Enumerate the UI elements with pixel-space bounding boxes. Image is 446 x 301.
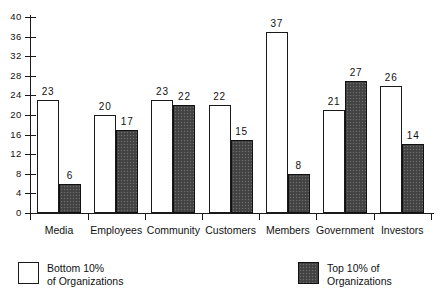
- x-tick-mark: [374, 213, 375, 220]
- legend-label-bottom-10-line2: of Organizations: [47, 275, 123, 288]
- bar: [266, 32, 288, 213]
- legend-label-top-10: Top 10% of Organizations: [327, 262, 392, 287]
- bar: [402, 144, 424, 213]
- bar-value-label: 15: [225, 127, 259, 137]
- x-tick-mark: [145, 213, 146, 220]
- x-tick-mark: [88, 213, 89, 220]
- bar-value-label: 21: [317, 97, 351, 107]
- bar: [59, 184, 81, 213]
- bar-value-label: 37: [260, 19, 294, 29]
- x-tick-mark: [259, 213, 260, 220]
- legend-item-bottom-10: Bottom 10% of Organizations: [18, 262, 123, 287]
- bar-value-label: 23: [31, 87, 65, 97]
- legend-item-top-10: Top 10% of Organizations: [298, 262, 392, 287]
- legend-label-top-10-line1: Top 10% of: [327, 262, 380, 274]
- x-tick-mark: [202, 213, 203, 220]
- x-tick-mark: [316, 213, 317, 220]
- bar-value-label: 27: [339, 68, 373, 78]
- chart-legend: Bottom 10% of Organizations Top 10% of O…: [0, 258, 446, 301]
- bar-chart: 0481216202428323640 MediaEmployeesCommun…: [0, 0, 446, 301]
- bars-layer: [0, 0, 446, 214]
- bar: [151, 100, 173, 213]
- bar: [288, 174, 310, 213]
- bar-value-label: 14: [396, 131, 430, 141]
- bar-value-label: 6: [53, 171, 87, 181]
- legend-label-bottom-10-line1: Bottom 10%: [47, 262, 104, 274]
- x-tick-mark: [30, 213, 31, 220]
- bar-value-label: 22: [203, 92, 237, 102]
- legend-label-top-10-line2: Organizations: [327, 275, 392, 288]
- x-tick-mark: [431, 213, 432, 220]
- bar: [37, 100, 59, 213]
- bar: [209, 105, 231, 213]
- legend-swatch-dark-square: [298, 262, 319, 284]
- bar-value-label: 22: [167, 92, 201, 102]
- bar: [94, 115, 116, 213]
- bar: [116, 130, 138, 213]
- bar: [231, 140, 253, 214]
- bar-value-label: 26: [374, 73, 408, 83]
- bar-value-label: 17: [110, 117, 144, 127]
- bar-value-label: 20: [88, 102, 122, 112]
- x-axis-category-label: Investors: [362, 224, 442, 236]
- bar-value-label: 8: [282, 161, 316, 171]
- bar: [323, 110, 345, 213]
- bar: [380, 86, 402, 213]
- legend-label-bottom-10: Bottom 10% of Organizations: [47, 262, 123, 287]
- bar: [173, 105, 195, 213]
- legend-swatch-white-square: [18, 262, 39, 284]
- plot-area: 0481216202428323640 MediaEmployeesCommun…: [0, 0, 446, 230]
